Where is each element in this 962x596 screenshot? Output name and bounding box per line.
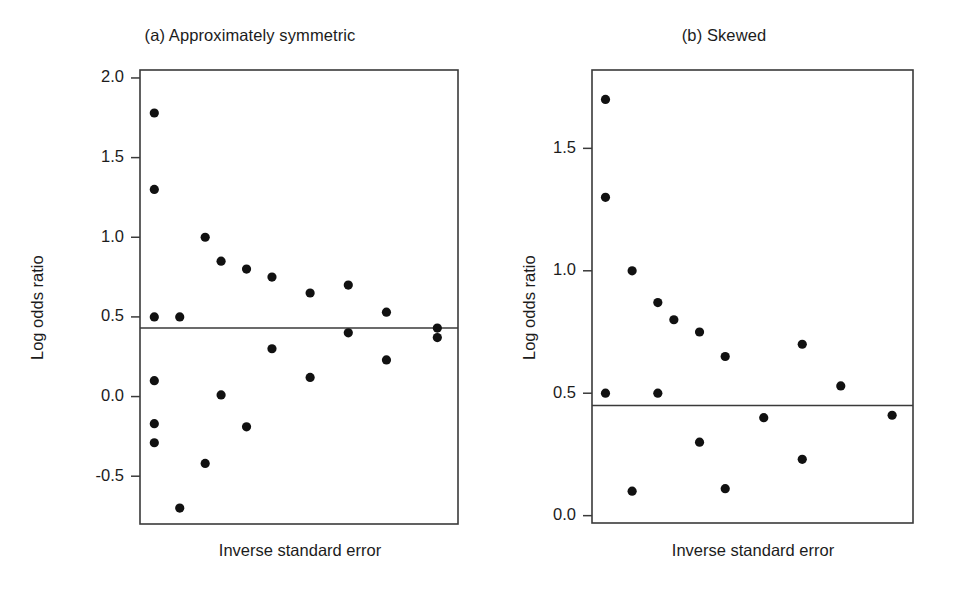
data-point	[175, 312, 184, 321]
y-tick-label: 1.0	[553, 260, 576, 278]
data-point	[242, 265, 251, 274]
data-point	[175, 503, 184, 512]
data-point	[150, 108, 159, 117]
data-point	[601, 193, 610, 202]
data-point	[216, 257, 225, 266]
data-point	[836, 381, 845, 390]
y-tick-label: 0.0	[101, 386, 124, 404]
data-point	[216, 390, 225, 399]
data-point	[201, 459, 210, 468]
data-point	[242, 422, 251, 431]
data-point	[759, 413, 768, 422]
data-point	[306, 288, 315, 297]
data-point	[344, 280, 353, 289]
panel-a-plot-area: -0.50.00.51.01.52.0	[0, 0, 500, 596]
y-tick-label: 1.0	[101, 227, 124, 245]
y-tick-label: 0.0	[553, 505, 576, 523]
data-point	[628, 487, 637, 496]
data-point	[888, 411, 897, 420]
data-point	[267, 344, 276, 353]
panel-a-approximately-symmetric: (a) Approximately symmetric -0.50.00.51.…	[0, 0, 500, 596]
data-point	[721, 484, 730, 493]
data-point	[150, 312, 159, 321]
data-point	[721, 352, 730, 361]
panel-b-skewed: (b) Skewed 0.00.51.01.5 Log odds ratio I…	[500, 0, 962, 596]
plot-frame	[592, 70, 913, 523]
data-point	[433, 333, 442, 342]
y-tick-label: 1.5	[101, 147, 124, 165]
data-point	[382, 308, 391, 317]
data-point	[653, 298, 662, 307]
data-point	[382, 355, 391, 364]
panel-a-x-axis-title: Inverse standard error	[140, 541, 460, 560]
y-tick-label: 0.5	[101, 306, 124, 324]
data-point	[201, 233, 210, 242]
panel-b-y-axis-title: Log odds ratio	[520, 255, 539, 360]
data-point	[798, 340, 807, 349]
plot-frame	[140, 70, 458, 524]
y-tick-label: 1.5	[553, 138, 576, 156]
panel-b-plot-area: 0.00.51.01.5	[500, 0, 962, 596]
data-point	[798, 455, 807, 464]
data-point	[628, 266, 637, 275]
data-point	[150, 438, 159, 447]
data-point	[695, 327, 704, 336]
data-point	[601, 389, 610, 398]
y-tick-label: 0.5	[553, 383, 576, 401]
panel-b-x-axis-title: Inverse standard error	[592, 541, 914, 560]
y-tick-label: 2.0	[101, 67, 124, 85]
data-point	[669, 315, 678, 324]
data-point	[344, 328, 353, 337]
funnel-plot-figure: (a) Approximately symmetric -0.50.00.51.…	[0, 0, 962, 596]
data-point	[653, 389, 662, 398]
y-tick-label: -0.5	[96, 466, 124, 484]
data-point	[695, 438, 704, 447]
data-point	[433, 323, 442, 332]
data-point	[306, 373, 315, 382]
panel-a-y-axis-title: Log odds ratio	[28, 255, 47, 360]
data-point	[150, 419, 159, 428]
data-point	[601, 95, 610, 104]
data-point	[267, 272, 276, 281]
data-point	[150, 376, 159, 385]
data-point	[150, 185, 159, 194]
